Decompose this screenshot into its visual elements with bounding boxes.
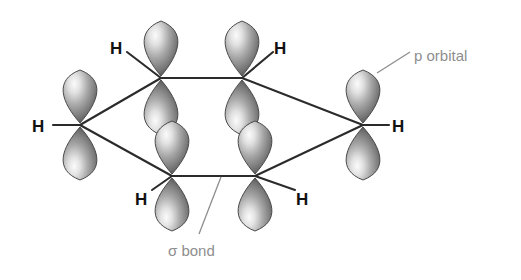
sigma-bond-label: σ bond	[168, 243, 215, 258]
p-orbital-label: p orbital	[414, 48, 467, 63]
orbital-bottom-left-lower-lobe	[155, 178, 189, 231]
h-top-right-label: H	[274, 40, 286, 57]
h-right-label: H	[392, 118, 404, 135]
orbital-bottom-right-upper-lobe	[238, 121, 272, 174]
h-bottom-right-label: H	[296, 191, 308, 208]
bond-lower-right	[255, 125, 363, 176]
p-orbital-leader-line	[377, 52, 410, 73]
orbital-diagram-canvas	[0, 0, 521, 280]
orbital-bottom-left-upper-lobe	[155, 121, 189, 174]
h-bottom-left-label: H	[135, 191, 147, 208]
p-orbital-benzene-diagram: HHHHHH p orbitalσ bond	[0, 0, 521, 280]
h-top-left-label: H	[110, 40, 122, 57]
hydrogen-bond-lines	[53, 52, 389, 190]
orbital-left-upper-lobe	[63, 70, 97, 123]
orbital-right-upper-lobe	[346, 70, 380, 123]
sigma-bond-framework	[80, 78, 363, 176]
orbital-bottom-right-lower-lobe	[238, 178, 272, 231]
bond-upper-right	[242, 78, 363, 125]
h-left-label: H	[32, 118, 44, 135]
sigma-bond-leader-line	[199, 177, 221, 234]
orbital-left-lower-lobe	[63, 127, 97, 180]
orbital-right-lower-lobe	[346, 127, 380, 180]
